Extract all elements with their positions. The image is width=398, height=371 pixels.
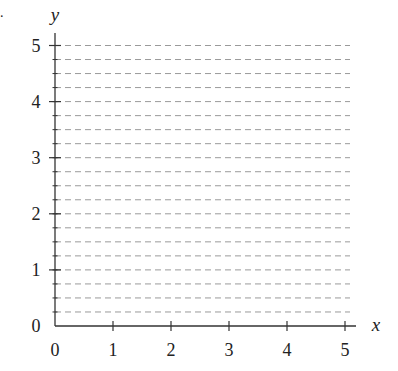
x-axis-label: x bbox=[371, 314, 381, 335]
x-tick-label: 3 bbox=[225, 340, 234, 360]
y-tick-label: 1 bbox=[32, 260, 41, 280]
x-tick-label: 0 bbox=[51, 340, 60, 360]
y-axis-label: y bbox=[49, 4, 60, 25]
y-tick-label: 5 bbox=[32, 36, 41, 56]
x-ticks: 012345 bbox=[51, 321, 350, 360]
y-tick-label: 0 bbox=[32, 316, 41, 336]
horizontal-gridlines bbox=[53, 46, 351, 312]
x-tick-label: 5 bbox=[341, 340, 350, 360]
corner-dot: . bbox=[0, 5, 4, 20]
axes bbox=[55, 33, 356, 326]
y-tick-label: 4 bbox=[32, 92, 41, 112]
x-tick-label: 2 bbox=[167, 340, 176, 360]
x-tick-label: 1 bbox=[109, 340, 118, 360]
x-tick-label: 4 bbox=[283, 340, 292, 360]
y-tick-label: 2 bbox=[32, 204, 41, 224]
y-tick-label: 3 bbox=[32, 148, 41, 168]
coordinate-grid: 012345 012345 y x . bbox=[0, 0, 398, 371]
